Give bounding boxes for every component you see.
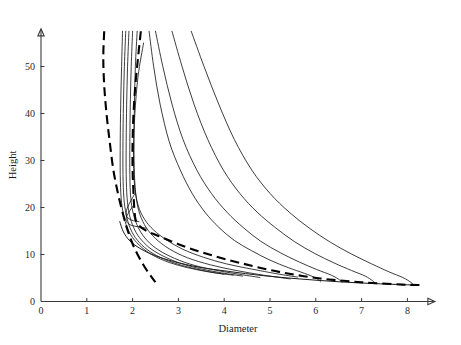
- tick-marks: [41, 67, 408, 303]
- curve-trajectory-4: [130, 31, 260, 277]
- curve-inner-boundary-dashed: [132, 31, 421, 285]
- curve-trajectory-5: [134, 31, 290, 279]
- y-tick-label: 10: [25, 249, 35, 260]
- axes-group: [38, 29, 435, 305]
- x-axis-title: Diameter: [218, 323, 258, 334]
- chart-figure: 01234567801020304050 Diameter Height: [0, 0, 461, 345]
- y-tick-label: 50: [25, 61, 35, 72]
- curve-trajectory-9: [172, 31, 375, 283]
- x-tick-label: 0: [39, 305, 44, 316]
- curve-trajectory-3: [126, 31, 242, 276]
- x-tick-label: 7: [359, 305, 364, 316]
- diameter-height-plot: 01234567801020304050 Diameter Height: [0, 0, 461, 345]
- x-tick-label: 2: [130, 305, 135, 316]
- x-tick-label: 8: [405, 305, 410, 316]
- y-tick-label: 0: [30, 296, 35, 307]
- y-tick-label: 20: [25, 202, 35, 213]
- x-tick-label: 1: [84, 305, 89, 316]
- y-tick-label: 40: [25, 108, 35, 119]
- y-tick-label: 30: [25, 155, 35, 166]
- curve-trajectory-7: [149, 31, 320, 282]
- x-tick-label: 4: [222, 305, 227, 316]
- y-axis-title: Height: [7, 151, 18, 180]
- curve-trajectory-6: [134, 43, 298, 277]
- curve-series-group: [103, 31, 421, 285]
- x-tick-label: 5: [268, 305, 273, 316]
- x-tick-label: 3: [176, 305, 181, 316]
- tick-label-group: 01234567801020304050: [25, 61, 410, 315]
- x-tick-label: 6: [313, 305, 318, 316]
